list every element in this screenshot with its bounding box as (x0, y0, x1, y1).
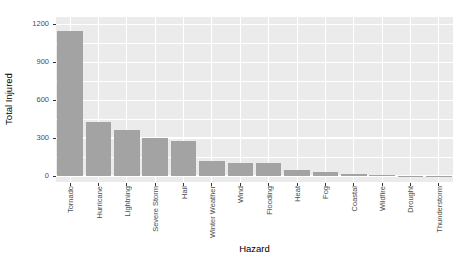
y-tick-label: 0 (0, 172, 49, 180)
category-gridline (353, 17, 354, 182)
y-axis-tick (53, 24, 56, 25)
x-tick-label-text: Tornado (66, 186, 75, 213)
minor-gridline (56, 81, 453, 82)
x-tick-label-text: Wind (236, 186, 245, 203)
major-gridline (56, 62, 453, 63)
minor-gridline (56, 119, 453, 120)
x-tick-label-thunderstorm: Thunderstorm (434, 186, 443, 233)
bar-coastal (341, 174, 367, 176)
bar-fog (313, 172, 339, 176)
x-tick-label-text: Coastal (349, 186, 358, 211)
x-tick-label-winter-weather: Winter Weather (207, 186, 216, 238)
category-gridline (297, 17, 298, 182)
bar-chart-figure: Total Injured Hazard 03006009001200Torna… (0, 0, 469, 267)
category-gridline (382, 17, 383, 182)
x-tick-label-coastal: Coastal (349, 186, 358, 211)
category-gridline (325, 17, 326, 182)
category-gridline (240, 17, 241, 182)
x-tick-label-text: Winter Weather (207, 186, 216, 238)
x-tick-label-text: Fog (321, 186, 330, 199)
x-tick-label-text: Hail (179, 186, 188, 199)
bar-hurricane (86, 122, 112, 176)
bar-wind (228, 163, 254, 176)
category-gridline (211, 17, 212, 182)
major-gridline (56, 100, 453, 101)
y-tick-label: 900 (0, 58, 49, 66)
bar-winter-weather (199, 161, 225, 176)
x-tick-label-drought: Drought (406, 186, 415, 213)
x-tick-label-severe-storm: Severe Storm (151, 186, 160, 232)
bar-flooding (256, 163, 282, 176)
x-tick-label-text: Hurricane (94, 186, 103, 219)
x-tick-label-heat: Heat (293, 186, 302, 202)
bar-hail (171, 141, 197, 176)
y-axis-tick (53, 138, 56, 139)
x-tick-label-text: Flooding (264, 186, 273, 215)
x-tick-label-wildfire: Wildfire (378, 186, 387, 211)
bar-tornado (57, 31, 83, 176)
x-tick-label-text: Thunderstorm (434, 186, 443, 233)
y-tick-label: 1200 (0, 20, 49, 28)
x-tick-label-wind: Wind (236, 186, 245, 203)
x-tick-label-lightning: Lightning (122, 186, 131, 216)
y-tick-label: 300 (0, 134, 49, 142)
x-tick-label-hail: Hail (179, 186, 188, 199)
x-tick-label-text: Lightning (122, 186, 131, 216)
category-gridline (268, 17, 269, 182)
x-tick-label-text: Heat (293, 186, 302, 202)
category-gridline (410, 17, 411, 182)
x-tick-label-text: Severe Storm (151, 186, 160, 232)
x-axis-title: Hazard (56, 243, 453, 254)
y-axis-tick (53, 100, 56, 101)
category-gridline (438, 17, 439, 182)
bar-lightning (114, 130, 140, 176)
y-axis-tick (53, 62, 56, 63)
bar-heat (284, 170, 310, 176)
x-tick-label-text: Drought (406, 186, 415, 213)
bar-severe-storm (142, 138, 168, 176)
x-tick-label-fog: Fog (321, 186, 330, 199)
minor-gridline (56, 43, 453, 44)
plot-panel (56, 17, 453, 182)
x-tick-label-hurricane: Hurricane (94, 186, 103, 219)
y-tick-label: 600 (0, 96, 49, 104)
major-gridline (56, 24, 453, 25)
x-tick-label-tornado: Tornado (66, 186, 75, 213)
x-tick-label-text: Wildfire (378, 186, 387, 211)
x-tick-label-flooding: Flooding (264, 186, 273, 215)
bar-wildfire (369, 175, 395, 176)
y-axis-tick (53, 176, 56, 177)
